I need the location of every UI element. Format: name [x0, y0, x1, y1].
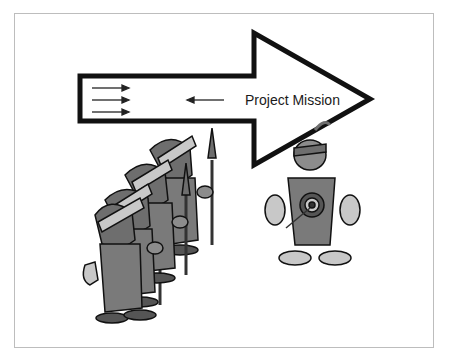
right-shoe [319, 251, 351, 265]
right-mitten [340, 195, 360, 225]
left-mitten [265, 195, 285, 225]
diagram-canvas: Project Mission [0, 0, 449, 358]
left-shoe [279, 251, 311, 265]
soldiers-group [83, 128, 216, 323]
main-arrow-label: Project Mission [245, 92, 340, 108]
